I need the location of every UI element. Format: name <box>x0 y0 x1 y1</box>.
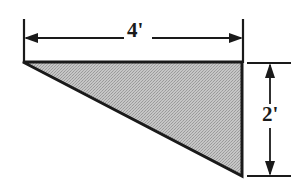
right-triangle-shape <box>23 62 242 176</box>
arrowhead-width-left <box>24 33 38 43</box>
figure-container: 4' 2' <box>0 0 301 189</box>
triangle-dimension-drawing <box>0 0 301 189</box>
height-dimension-label: 2' <box>259 104 281 125</box>
arrowhead-height-top <box>265 63 275 78</box>
width-dimension-label: 4' <box>124 20 146 41</box>
arrowhead-width-right <box>229 33 243 43</box>
arrowhead-height-bottom <box>265 161 275 176</box>
